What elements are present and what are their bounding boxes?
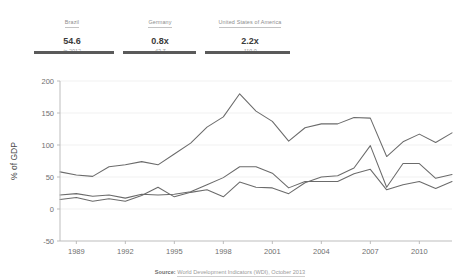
x-tick-label: 1998 <box>215 247 232 256</box>
x-tick-label: 2010 <box>411 247 428 256</box>
series-line-united-states-of-america <box>60 94 452 177</box>
gridlines <box>60 81 452 209</box>
country-value: 54.6 <box>28 36 116 46</box>
line-chart: -50050100150200 198919921995199820012004… <box>0 62 460 280</box>
y-axis-title: % of GDP <box>9 142 19 180</box>
country-underline-bar-united-states-of-america <box>205 51 290 54</box>
x-tick-label: 1992 <box>117 247 134 256</box>
source-footer: Source: World Development Indicators (WD… <box>0 268 460 276</box>
y-tick-label: -50 <box>43 237 54 246</box>
country-column-germany: Germany 0.8x 43.7 <box>120 10 200 55</box>
country-name-label: United States of America <box>219 19 282 28</box>
country-name-label: Brazil <box>65 19 79 28</box>
country-underline-bar-germany <box>123 51 196 54</box>
country-underline-bar-brazil <box>34 51 114 54</box>
x-tick-label: 1995 <box>166 247 183 256</box>
country-name-label: Germany <box>148 19 171 28</box>
y-tick-label: 0 <box>50 205 54 214</box>
country-column-united-states-of-america: United States of America 2.2x 119.0 <box>204 10 296 55</box>
country-value: 0.8x <box>120 36 200 46</box>
series-line-brazil <box>60 146 452 202</box>
y-axis-ticks: -50050100150200 <box>41 77 60 246</box>
country-comparison-header: Brazil 54.6 in 2012 Germany 0.8x 43.7 Un… <box>0 0 460 62</box>
y-tick-label: 150 <box>41 109 54 118</box>
x-axis-ticks: 19891992199519982001200420072010 <box>68 241 428 256</box>
y-tick-label: 100 <box>41 141 54 150</box>
data-series <box>60 94 452 202</box>
y-tick-label: 200 <box>41 77 54 86</box>
source-label: Source: <box>155 269 176 275</box>
chart-canvas: -50050100150200 198919921995199820012004… <box>0 62 460 280</box>
y-tick-label: 50 <box>46 173 54 182</box>
x-tick-label: 2001 <box>264 247 281 256</box>
x-tick-label: 2004 <box>313 247 330 256</box>
source-text[interactable]: World Development Indicators (WDI), Octo… <box>177 269 305 277</box>
x-tick-label: 1989 <box>68 247 85 256</box>
country-column-brazil: Brazil 54.6 in 2012 <box>28 10 116 55</box>
country-value: 2.2x <box>204 36 296 46</box>
x-tick-label: 2007 <box>362 247 379 256</box>
series-line-germany <box>60 167 452 198</box>
